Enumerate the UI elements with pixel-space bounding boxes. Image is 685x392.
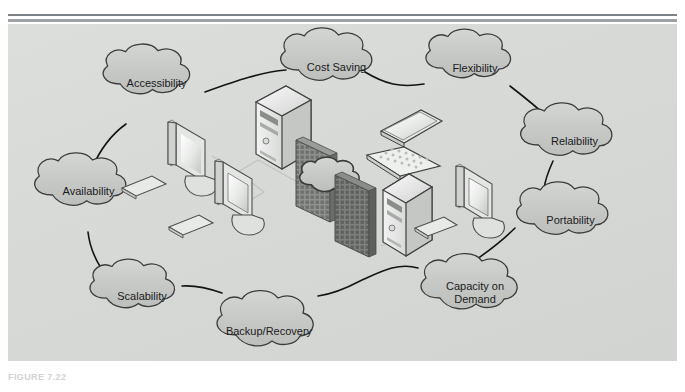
- cloud-text-backup-recovery: Backup/Recovery: [226, 325, 312, 338]
- cloud-label-backup-recovery[interactable]: Backup/Recovery: [210, 318, 328, 344]
- cloud-text-accessibility: Accessibility: [127, 77, 187, 90]
- figure-root: Accessibility Cost Saving Flexibility Re…: [0, 0, 685, 392]
- cloud-text-availability: Availability: [63, 185, 115, 198]
- tower-server-icon-2: [383, 174, 432, 256]
- cloud-label-portability[interactable]: Portability: [518, 207, 623, 233]
- cloud-text-flexibility: Flexibility: [452, 62, 497, 75]
- cloud-label-relaibility[interactable]: Relaibility: [522, 128, 627, 154]
- cloud-label-cost-saving[interactable]: Cost Saving: [284, 54, 389, 80]
- link-accessibility-costsaving: [205, 70, 286, 92]
- cloud-text-scalability: Scalability: [117, 290, 167, 303]
- cloud-text-relaibility: Relaibility: [551, 135, 598, 148]
- laptop-icon: [367, 110, 442, 180]
- cloud-label-flexibility[interactable]: Flexibility: [425, 55, 525, 81]
- cloud-label-availability[interactable]: Availability: [36, 178, 141, 204]
- link-capacity-backuprecovery: [318, 266, 418, 296]
- cloud-label-accessibility[interactable]: Accessibility: [104, 70, 209, 96]
- cloud-label-scalability[interactable]: Scalability: [92, 283, 192, 309]
- figure-caption: FIGURE 7.22: [8, 372, 66, 382]
- cloud-label-capacity-on-demand[interactable]: Capacity on Demand: [420, 277, 530, 309]
- cloud-text-cost-saving: Cost Saving: [307, 61, 366, 74]
- cloud-text-capacity-on-demand-line2: Demand: [454, 293, 496, 306]
- cloud-text-portability: Portability: [546, 214, 594, 227]
- desktop-computer-icon-2: [169, 159, 264, 238]
- firewall-icon-2: [335, 172, 376, 257]
- cloud-text-capacity-on-demand-line1: Capacity on: [446, 280, 504, 293]
